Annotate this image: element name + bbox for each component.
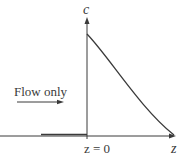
y-axis-arrow-icon (85, 17, 90, 24)
flow-arrow-head-icon (57, 100, 64, 104)
y-axis-label: c (83, 2, 90, 17)
concentration-curve (87, 34, 174, 135)
diagram-canvas: c z z = 0 Flow only (0, 0, 184, 160)
flow-label: Flow only (14, 84, 68, 99)
x-axis-label: z (170, 141, 177, 156)
origin-label: z = 0 (84, 141, 110, 156)
